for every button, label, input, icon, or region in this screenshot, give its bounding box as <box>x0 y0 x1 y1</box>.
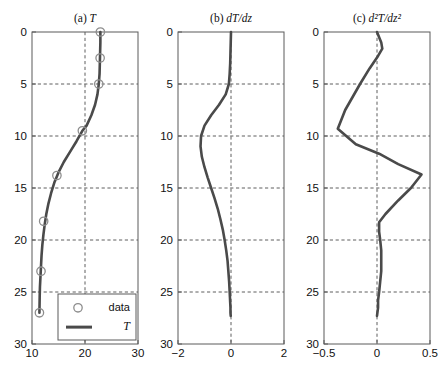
panel-title-symbol: T <box>90 12 98 24</box>
figure-container: 051015202530102030(a) T051015202530−202(… <box>0 0 441 380</box>
x-tick-label: 30 <box>132 347 145 359</box>
y-tick-label: 15 <box>14 182 27 194</box>
panel-title-a: (a) T <box>74 12 98 25</box>
y-tick-label: 10 <box>160 130 173 142</box>
legend: dataT <box>58 294 136 340</box>
panel-title-prefix: (a) <box>74 12 90 25</box>
y-tick-label: 15 <box>160 182 173 194</box>
x-tick-label: 20 <box>79 347 92 359</box>
data-curve-b <box>201 32 231 316</box>
panel-title-c: (c) d²T/dz² <box>353 12 402 25</box>
x-tick-label: 0 <box>374 347 380 359</box>
panel-c: 051015202530−0.500.5(c) d²T/dz² <box>306 12 438 359</box>
y-tick-label: 20 <box>306 234 319 246</box>
panel-title-b: (b) dT/dz <box>210 12 252 25</box>
y-tick-label: 10 <box>14 130 27 142</box>
y-tick-label: 25 <box>14 286 27 298</box>
depth-profile-figure: 051015202530102030(a) T051015202530−202(… <box>0 0 441 380</box>
x-tick-label: 0.5 <box>422 347 438 359</box>
panel-b: 051015202530−202(b) dT/dz <box>160 12 287 359</box>
data-curve-c <box>338 32 422 316</box>
y-tick-label: 15 <box>306 182 319 194</box>
x-tick-label: 0 <box>228 347 234 359</box>
y-tick-label: 0 <box>167 26 173 38</box>
y-tick-label: 5 <box>167 78 173 90</box>
y-tick-label: 20 <box>160 234 173 246</box>
data-curve-a <box>39 32 100 313</box>
x-tick-label: 2 <box>281 347 287 359</box>
y-tick-label: 0 <box>313 26 319 38</box>
y-tick-label: 25 <box>306 286 319 298</box>
panel-title-symbol: d²T/dz² <box>369 12 402 24</box>
y-tick-label: 20 <box>14 234 27 246</box>
x-tick-label: −2 <box>171 347 184 359</box>
x-tick-label: −0.5 <box>313 347 336 359</box>
panel-title-prefix: (c) <box>353 12 369 25</box>
x-tick-label: 10 <box>26 347 39 359</box>
y-tick-label: 25 <box>160 286 173 298</box>
panel-title-prefix: (b) <box>210 12 226 25</box>
legend-label-data: data <box>109 301 131 313</box>
panel-title-symbol: dT/dz <box>226 12 252 24</box>
y-tick-label: 5 <box>21 78 27 90</box>
y-tick-label: 10 <box>306 130 319 142</box>
y-tick-label: 0 <box>21 26 27 38</box>
y-tick-label: 5 <box>313 78 319 90</box>
